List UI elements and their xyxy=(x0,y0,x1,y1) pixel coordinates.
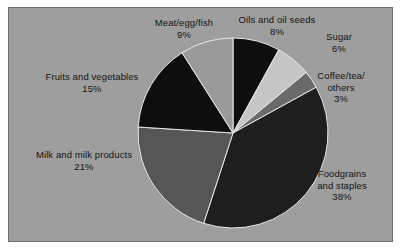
slice-label-foodgrains-and-staples: Foodgrains and staples 38% xyxy=(300,168,384,203)
slice-label-coffee-tea-others: Coffee/tea/ others 3% xyxy=(306,70,376,105)
slice-label-value: 21% xyxy=(20,161,148,173)
slice-label-text: Oils and oil seeds xyxy=(222,14,332,26)
slice-label-text: Milk and milk products xyxy=(20,149,148,161)
pie-chart-figure: Meat/egg/fish 9% Oils and oil seeds 8% S… xyxy=(0,0,402,250)
slice-label-text: Fruits and vegetables xyxy=(32,71,152,83)
slice-label-sugar: Sugar 6% xyxy=(310,31,368,54)
slice-label-text-line2: and staples xyxy=(300,180,384,192)
slice-label-text: Coffee/tea/ xyxy=(306,70,376,82)
slice-label-value: 38% xyxy=(300,191,384,203)
slice-label-value: 6% xyxy=(310,43,368,55)
slice-label-text: Meat/egg/fish xyxy=(134,17,234,29)
slice-label-value: 15% xyxy=(32,83,152,95)
slice-label-milk-and-milk-products: Milk and milk products 21% xyxy=(20,149,148,172)
slice-label-value: 9% xyxy=(134,29,234,41)
slice-label-fruits-and-vegetables: Fruits and vegetables 15% xyxy=(32,71,152,94)
slice-label-text: Foodgrains xyxy=(300,168,384,180)
slice-label-text: Sugar xyxy=(310,31,368,43)
slice-label-text-line2: others xyxy=(306,82,376,94)
slice-label-meat-egg-fish: Meat/egg/fish 9% xyxy=(134,17,234,40)
slice-label-value: 3% xyxy=(306,93,376,105)
